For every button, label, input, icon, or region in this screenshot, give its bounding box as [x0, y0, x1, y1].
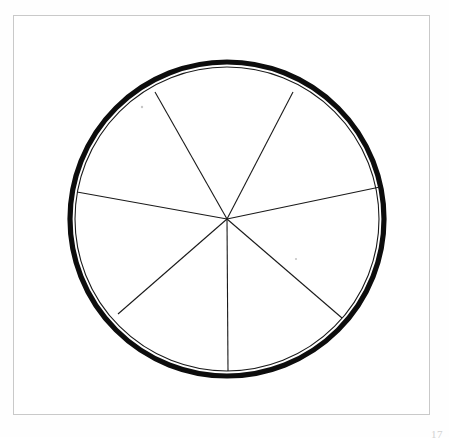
spoke-bottom — [227, 219, 228, 371]
spoke-lower-right — [227, 219, 342, 318]
paper-speck-lower-right — [295, 258, 297, 260]
spoke-lower-left — [118, 219, 227, 314]
spoke-left — [77, 192, 227, 219]
page-number: 17 — [431, 429, 443, 440]
spoke-upper-right — [227, 92, 293, 219]
paper-speck-upper-left — [141, 106, 143, 108]
spoke-upper-left — [155, 92, 227, 219]
spoke-right — [227, 187, 380, 219]
